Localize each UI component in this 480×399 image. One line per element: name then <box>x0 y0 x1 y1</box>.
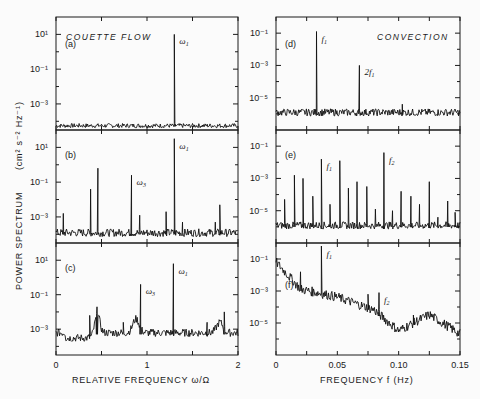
spectrum-trace <box>276 246 460 336</box>
panel-letter: (f) <box>285 280 294 290</box>
x-tick-label: 0.15 <box>451 360 469 370</box>
y-tick-label: 10⁻¹ <box>250 141 268 151</box>
spectrum-trace <box>56 264 238 342</box>
panel-f: 10⁻¹10⁻³10⁻⁵00.050.100.15(f)f1f2 <box>249 243 469 370</box>
y-tick-label: 10⁻³ <box>30 212 48 222</box>
y-tick-label: 10⁻³ <box>30 99 48 109</box>
panel-e: 10⁻¹10⁻³10⁻⁵(e)f1f2 <box>249 130 460 243</box>
y-tick-label: 10⁻¹ <box>30 64 48 74</box>
y-tick-label: 10⁻¹ <box>30 290 48 300</box>
peak-label: ω3 <box>137 177 146 188</box>
y-tick-label: 10⁻¹ <box>250 28 268 38</box>
couette-flow-title: COUETTE FLOW <box>66 32 152 42</box>
y-axis-units: (cm² s⁻² Hz⁻¹) <box>14 101 24 170</box>
x-tick-label: 2 <box>235 360 240 370</box>
plot-frame <box>56 130 238 243</box>
convection-title: CONVECTION <box>377 32 449 42</box>
power-spectrum-figure: POWER SPECTRUM (cm² s⁻² Hz⁻¹) COUETTE FL… <box>0 0 480 399</box>
panel-letter: (a) <box>65 39 76 49</box>
x-tick-label: 1 <box>144 360 149 370</box>
peak-label: ω3 <box>146 286 155 297</box>
panel-letter: (e) <box>285 150 296 160</box>
x-tick-label: 0.05 <box>329 360 347 370</box>
y-tick-label: 10⁻¹ <box>250 254 268 264</box>
spectrum-trace <box>56 139 238 237</box>
y-axis-label: POWER SPECTRUM <box>14 192 24 290</box>
peak-label: ω1 <box>179 141 188 152</box>
peak-label: ω1 <box>179 36 188 47</box>
peak-label: 2f1 <box>364 67 374 78</box>
y-tick-label: 10⁻³ <box>30 324 48 334</box>
peak-label: f2 <box>384 295 390 306</box>
y-tick-label: 10⁻⁵ <box>249 93 268 103</box>
y-tick-label: 10⁻³ <box>250 173 268 183</box>
left-x-axis-label: RELATIVE FREQUENCY ω/Ω <box>72 375 210 385</box>
panel-letter: (d) <box>285 39 296 49</box>
right-x-axis-label: FREQUENCY f (Hz) <box>320 375 414 385</box>
peak-label: ω1 <box>178 266 187 277</box>
peak-label: f1 <box>326 249 332 260</box>
y-tick-label: 10⁻¹ <box>30 177 48 187</box>
spectrum-trace <box>276 153 460 229</box>
panel-c: 10¹10⁻¹10⁻³012(c)ω3ω1 <box>30 243 241 370</box>
panel-letter: (c) <box>65 263 76 273</box>
y-tick-label: 10⁻³ <box>250 60 268 70</box>
y-tick-label: 10¹ <box>35 29 48 39</box>
x-tick-label: 0.10 <box>390 360 408 370</box>
x-tick-label: 0 <box>53 360 58 370</box>
y-tick-label: 10¹ <box>35 142 48 152</box>
peak-label: f1 <box>326 161 332 172</box>
peak-label: f2 <box>389 155 395 166</box>
panel-b: 10¹10⁻¹10⁻³(b)ω3ω1 <box>30 130 238 243</box>
panel-letter: (b) <box>65 150 76 160</box>
y-tick-label: 10¹ <box>35 255 48 265</box>
y-tick-label: 10⁻⁵ <box>249 318 268 328</box>
y-tick-label: 10⁻⁵ <box>249 206 268 216</box>
x-tick-label: 0 <box>273 360 278 370</box>
spectrum-trace <box>56 34 238 127</box>
peak-label: f1 <box>321 34 327 45</box>
y-tick-label: 10⁻³ <box>250 286 268 296</box>
